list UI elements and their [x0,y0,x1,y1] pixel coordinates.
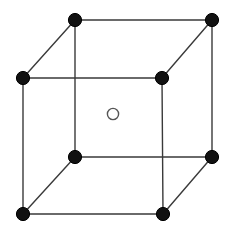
edge-depth-top-right [162,20,212,78]
edge-depth-bottom-left [23,157,75,214]
cube-diagram-svg [0,0,229,231]
corner-atom-back-bottom-left [68,150,81,163]
corner-atom-front-top-right [155,71,168,84]
center-atom-body-center [107,108,118,119]
corner-atom-back-bottom-right [205,150,218,163]
edge-depth-bottom-right [163,157,212,214]
corner-atom-front-top-left [16,71,29,84]
corner-atom-front-bottom-left [16,207,29,220]
bcc-unit-cell-figure [0,0,229,231]
edge-depth-top-left [23,20,75,78]
edge-front-right [162,78,163,214]
center-atom-group [107,108,118,119]
corner-atom-back-top-right [205,13,218,26]
corner-atom-back-top-left [68,13,81,26]
corner-atom-front-bottom-right [156,207,169,220]
